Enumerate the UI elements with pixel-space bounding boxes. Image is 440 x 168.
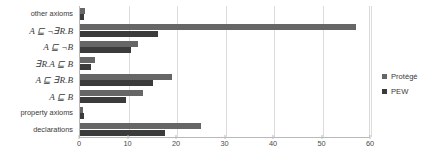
category-label: A ⊑ B	[49, 89, 73, 106]
legend-swatch-icon	[382, 89, 387, 94]
bar-prot-g-	[80, 41, 138, 47]
category-label: declarations	[33, 122, 73, 139]
x-tick-label: 60	[366, 139, 374, 148]
bar-chart: other axiomsA ⊑ ¬∃R.BA ⊑ ¬B∃R.A ⊑ BA ⊑ ∃…	[0, 0, 440, 168]
x-tick-label: 30	[220, 139, 228, 148]
value-axis-ticks: 0102030405060	[79, 139, 370, 153]
bar-pew	[80, 113, 84, 119]
gridline	[371, 6, 372, 137]
category-label: property axioms	[20, 105, 73, 122]
legend-swatch-icon	[382, 74, 387, 79]
bar-prot-g-	[80, 57, 95, 63]
chart-legend: ProtégéPEW	[382, 70, 418, 100]
bar-pew	[80, 31, 158, 37]
bar-row	[80, 6, 369, 23]
bar-row	[80, 105, 369, 122]
legend-label: Protégé	[391, 72, 418, 81]
category-label: A ⊑ ¬∃R.B	[29, 23, 73, 40]
bar-prot-g-	[80, 107, 83, 113]
bar-prot-g-	[80, 90, 143, 96]
x-tick-label: 20	[172, 139, 180, 148]
x-tick-label: 0	[77, 139, 81, 148]
legend-label: PEW	[391, 87, 408, 96]
bar-row	[80, 56, 369, 73]
bar-pew	[80, 47, 131, 53]
x-tick-label: 50	[317, 139, 325, 148]
bar-rows	[80, 6, 369, 137]
bar-row	[80, 72, 369, 89]
bar-prot-g-	[80, 74, 172, 80]
bar-row	[80, 89, 369, 106]
category-label: ∃R.A ⊑ B	[35, 56, 73, 73]
bar-pew	[80, 64, 91, 70]
category-label: other axioms	[31, 6, 73, 23]
bar-pew	[80, 80, 153, 86]
legend-item[interactable]: Protégé	[382, 70, 418, 82]
bar-prot-g-	[80, 8, 85, 14]
bar-prot-g-	[80, 24, 356, 30]
bar-pew	[80, 14, 84, 20]
legend-item[interactable]: PEW	[382, 85, 418, 97]
x-tick-label: 10	[123, 139, 131, 148]
bar-pew	[80, 97, 126, 103]
x-tick-label: 40	[269, 139, 277, 148]
bar-pew	[80, 130, 165, 136]
category-label: A ⊑ ∃R.B	[35, 72, 73, 89]
category-label: A ⊑ ¬B	[43, 39, 73, 56]
bar-row	[80, 23, 369, 40]
bar-row	[80, 39, 369, 56]
category-axis-labels: other axiomsA ⊑ ¬∃R.BA ⊑ ¬B∃R.A ⊑ BA ⊑ ∃…	[0, 6, 76, 138]
bar-prot-g-	[80, 123, 201, 129]
plot-area	[79, 6, 370, 138]
